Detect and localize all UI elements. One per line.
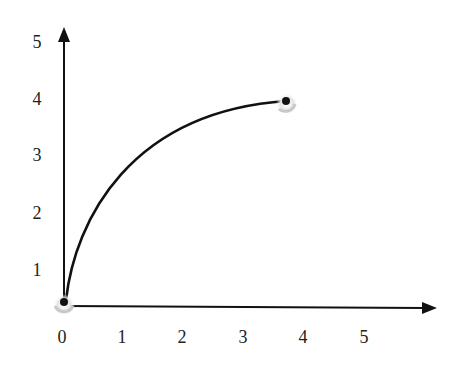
y-tick-label-1: 1 <box>33 261 42 279</box>
x-axis <box>64 302 437 314</box>
x-axis-arrow-icon <box>422 302 437 314</box>
x-tick-label-0: 0 <box>58 328 67 346</box>
x-tick-label-2: 2 <box>178 328 187 346</box>
y-tick-label-2: 2 <box>33 204 42 222</box>
y-axis <box>58 27 70 306</box>
y-tick-label-3: 3 <box>33 146 42 164</box>
x-tick-label-5: 5 <box>360 328 369 346</box>
start-point-marker <box>53 293 75 315</box>
y-tick-label-4: 4 <box>33 90 42 108</box>
y-axis-arrow-icon <box>58 27 70 42</box>
curve <box>66 101 286 300</box>
y-tick-label-5: 5 <box>33 33 42 51</box>
diagram-canvas <box>0 0 470 366</box>
x-tick-label-4: 4 <box>299 328 308 346</box>
x-tick-label-1: 1 <box>118 328 127 346</box>
x-tick-label-3: 3 <box>239 328 248 346</box>
end-point-marker <box>276 92 298 114</box>
